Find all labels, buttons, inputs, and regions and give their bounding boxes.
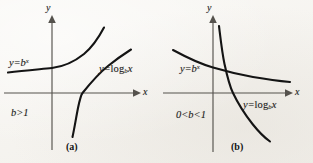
panel-b-x-axis-label: x bbox=[295, 87, 299, 97]
panel-b-exp-lhs: y bbox=[180, 63, 185, 74]
panel-a-exp-eq: = bbox=[14, 57, 21, 68]
panel-a-y-axis-arrow bbox=[48, 15, 56, 23]
panel-a-x-axis-label: x bbox=[143, 87, 147, 97]
panel-b-condition: 0<b<1 bbox=[176, 110, 206, 121]
panel-a-exp-lhs: y bbox=[9, 57, 14, 68]
panel-b-curve-logarithmic bbox=[219, 26, 270, 142]
panel-b-caption: (b) bbox=[231, 141, 243, 152]
panel-a-log-eq: = bbox=[104, 63, 111, 74]
panel-b-log-argument: x bbox=[272, 99, 277, 110]
panel-b-y-axis-arrow bbox=[209, 15, 217, 23]
panel-a: y x y=bx y=logbx b>1 (a) bbox=[0, 0, 156, 163]
panel-a-y-axis-label: y bbox=[46, 3, 50, 13]
panel-b: y x y=bx y=logbx 0<b<1 (b) bbox=[157, 0, 313, 163]
panel-b-log-word: log bbox=[255, 99, 269, 110]
panel-b-log-eq: = bbox=[248, 99, 255, 110]
panel-a-log-word: log bbox=[111, 63, 125, 74]
panel-a-exp-exponent: x bbox=[26, 57, 29, 64]
panel-a-x-axis-arrow bbox=[133, 89, 141, 97]
panel-b-logarithm-label: y=logbx bbox=[243, 100, 276, 111]
panel-b-x-axis-arrow bbox=[285, 89, 293, 97]
panel-b-plot bbox=[157, 0, 313, 163]
panel-a-exponential-label: y=bx bbox=[9, 58, 29, 69]
panel-a-plot bbox=[0, 0, 156, 163]
panel-a-log-lhs: y bbox=[99, 63, 104, 74]
panel-a-log-argument: x bbox=[128, 63, 133, 74]
panel-b-y-axis-label: y bbox=[207, 3, 211, 13]
panel-a-caption: (a) bbox=[66, 141, 78, 152]
panel-b-log-lhs: y bbox=[243, 99, 248, 110]
figure-container: y x y=bx y=logbx b>1 (a) bbox=[0, 0, 313, 163]
panel-b-exp-eq: = bbox=[185, 63, 192, 74]
panel-b-exponential-label: y=bx bbox=[180, 64, 200, 75]
panel-a-logarithm-label: y=logbx bbox=[99, 64, 132, 75]
panel-b-exp-exponent: x bbox=[197, 63, 200, 70]
panel-a-condition: b>1 bbox=[11, 108, 29, 119]
